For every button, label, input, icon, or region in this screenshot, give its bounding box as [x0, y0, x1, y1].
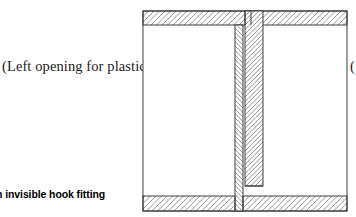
hook-fitting-cross-section-drawing [0, 0, 356, 217]
diagram-page: (Left opening for plastic) ( am of an in… [0, 0, 356, 217]
hook-neck-strip [235, 25, 243, 211]
hook-body-strip [245, 11, 263, 186]
bottom-bar [143, 196, 347, 211]
